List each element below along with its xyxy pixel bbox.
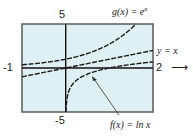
yx-label: y = x <box>157 46 178 56</box>
ymax-label: 5 <box>59 9 65 20</box>
xmax-label: 2 <box>156 62 162 73</box>
graph-screen <box>0 0 193 139</box>
arrow-right-icon: ⟶ <box>171 61 188 73</box>
f-label: f(x) = ln x <box>110 120 150 130</box>
ymin-label: -5 <box>55 115 65 126</box>
xmin-label: -1 <box>3 62 13 73</box>
g-label: g(x) = ex <box>112 6 147 17</box>
